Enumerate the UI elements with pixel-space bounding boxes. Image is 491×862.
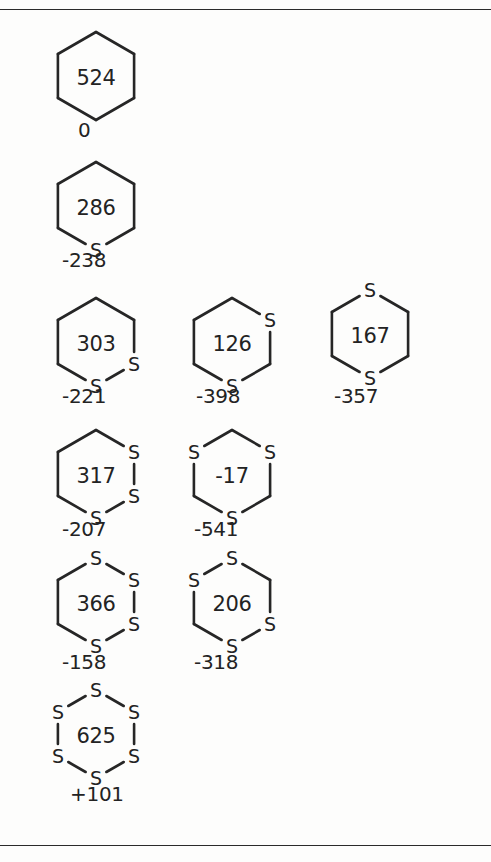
- ring-energy-value: -207: [62, 517, 106, 541]
- sulfur-atom-label: S: [128, 701, 140, 723]
- ring-bond: [194, 624, 222, 640]
- sulfur-atom-label: S: [188, 569, 200, 591]
- sulfur-atom-label: S: [128, 441, 140, 463]
- ring-bond: [242, 630, 259, 640]
- ring-bond: [106, 696, 123, 706]
- ring-energy-value: -158: [62, 650, 106, 674]
- ring-bond: [232, 298, 260, 314]
- ring-bond: [232, 430, 260, 446]
- ring-bond: [68, 696, 85, 706]
- ring-energy-value: 0: [78, 118, 90, 142]
- diagram-page: 5240S286-238SS303-221SS126-398SS167-357S…: [0, 0, 491, 862]
- ring-center-value: 303: [76, 332, 115, 356]
- ring-bond: [204, 564, 221, 574]
- sulfur-atom-label: S: [128, 485, 140, 507]
- ring-bond: [204, 430, 232, 446]
- ring-bond: [106, 564, 123, 574]
- sulfur-atom-label: S: [264, 613, 276, 635]
- ring-bond: [96, 32, 134, 54]
- ring-bond: [194, 496, 222, 512]
- ring-bond: [242, 564, 270, 580]
- ring-center-value: 206: [212, 592, 251, 616]
- ring-bond: [380, 356, 408, 372]
- ring-center-value: 317: [76, 464, 115, 488]
- ring-bond: [106, 502, 123, 512]
- ring-bond: [58, 430, 96, 452]
- ring-bond: [58, 564, 86, 580]
- ring-bond: [106, 228, 134, 244]
- sulfur-atom-label: S: [52, 701, 64, 723]
- page-rule-top: [0, 9, 491, 10]
- ring-structure: 524: [52, 30, 202, 158]
- ring-energy-value: -398: [196, 384, 240, 408]
- sulfur-atom-label: S: [90, 547, 102, 569]
- ring-bond: [68, 762, 85, 772]
- ring-bond: [194, 298, 232, 320]
- ring-energy-value: -541: [194, 517, 238, 541]
- ring-bond: [96, 430, 124, 446]
- page-rule-bottom: [0, 845, 491, 846]
- ring-center-value: 286: [76, 196, 115, 220]
- sulfur-atom-label: S: [128, 745, 140, 767]
- ring-center-value: 167: [350, 324, 389, 348]
- ring-bond: [58, 98, 96, 120]
- ring-center-value: 126: [212, 332, 251, 356]
- sulfur-atom-label: S: [188, 441, 200, 463]
- ring-center-value: -17: [215, 464, 248, 488]
- ring-energy-value: -238: [62, 248, 106, 272]
- ring-bond: [106, 370, 123, 380]
- ring-bond: [96, 98, 134, 120]
- sulfur-atom-label: S: [52, 745, 64, 767]
- sulfur-atom-label: S: [264, 441, 276, 463]
- ring-bond: [242, 364, 270, 380]
- ring-bond: [380, 296, 408, 312]
- sulfur-atom-label: S: [128, 353, 140, 375]
- ring-energy-value: -318: [194, 650, 238, 674]
- ring-energy-value: +101: [70, 782, 124, 806]
- ring-bond: [242, 496, 270, 512]
- sulfur-atom-label: S: [226, 547, 238, 569]
- ring-bond: [58, 228, 86, 244]
- ring-energy-value: -221: [62, 384, 106, 408]
- ring-bond: [58, 364, 86, 380]
- ring-bond: [194, 364, 222, 380]
- ring-bond: [106, 762, 123, 772]
- ring-center-value: 625: [76, 724, 115, 748]
- sulfur-atom-label: S: [128, 613, 140, 635]
- ring-bond: [58, 32, 96, 54]
- sulfur-atom-label: S: [364, 279, 376, 301]
- sulfur-atom-label: S: [128, 569, 140, 591]
- ring-bond: [332, 356, 360, 372]
- ring-center-value: 366: [76, 592, 115, 616]
- ring-bond: [332, 296, 360, 312]
- ring-energy-value: -357: [334, 384, 378, 408]
- sulfur-atom-label: S: [90, 679, 102, 701]
- ring-bond: [96, 298, 134, 320]
- ring-bond: [58, 298, 96, 320]
- ring-bond: [58, 624, 86, 640]
- ring-center-value: 524: [76, 66, 115, 90]
- ring-bond: [58, 162, 96, 184]
- ring-bond: [106, 630, 123, 640]
- ring-bond: [58, 496, 86, 512]
- ring-bond: [96, 162, 134, 184]
- sulfur-atom-label: S: [264, 309, 276, 331]
